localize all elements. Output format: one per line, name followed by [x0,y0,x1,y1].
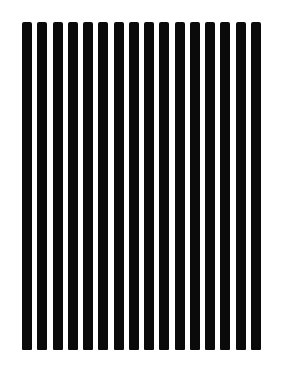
grating-bar [68,22,78,350]
grating-bar [220,22,230,350]
grating-bar [114,22,124,350]
grating-bar [159,22,169,350]
grating-bar [236,22,246,350]
grating-bar [83,22,93,350]
grating-bar [37,22,47,350]
grating-bar [22,22,32,350]
grating-bar [98,22,108,350]
vertical-bar-grating [0,0,286,371]
grating-bar [205,22,215,350]
grating-bar [175,22,185,350]
grating-bar [190,22,200,350]
grating-bar [53,22,63,350]
grating-bar [144,22,154,350]
grating-bar [129,22,139,350]
grating-bar [251,22,261,350]
